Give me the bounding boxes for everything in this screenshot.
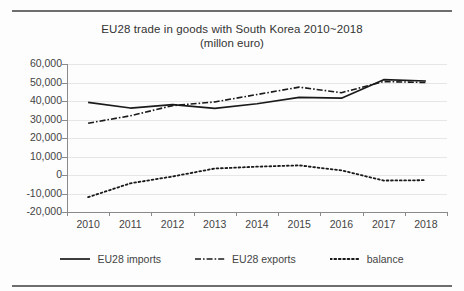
x-axis-label: 2015 — [288, 218, 311, 230]
x-axis-label: 2016 — [330, 218, 353, 230]
legend-item-eu28-imports[interactable]: EU28 imports — [60, 253, 161, 265]
legend-item-balance[interactable]: balance — [330, 253, 404, 265]
series-line-balance — [88, 165, 426, 197]
y-axis-label: 60,000 — [4, 57, 62, 69]
y-axis-label: 40,000 — [4, 94, 62, 106]
chart-subtitle: (millon euro) — [0, 36, 464, 50]
top-divider-rule — [12, 10, 452, 12]
legend-label: EU28 imports — [97, 253, 161, 265]
chart-legend: EU28 importsEU28 exportsbalance — [0, 246, 464, 272]
x-axis-label: 2017 — [372, 218, 395, 230]
y-axis-label: 30,000 — [4, 113, 62, 125]
x-axis-label: 2010 — [76, 218, 99, 230]
legend-label: balance — [367, 253, 404, 265]
x-axis-label: 2012 — [161, 218, 184, 230]
plot-area: 60,00050,00040,00030,00020,00010,0000-10… — [0, 56, 464, 236]
y-axis-label: 20,000 — [4, 131, 62, 143]
legend-item-eu28-exports[interactable]: EU28 exports — [195, 253, 296, 265]
solid-line-swatch — [60, 254, 90, 264]
page-root: EU28 trade in goods with South Korea 201… — [0, 0, 464, 291]
line-chart: EU28 trade in goods with South Korea 201… — [0, 14, 464, 282]
chart-title: EU28 trade in goods with South Korea 201… — [0, 14, 464, 36]
x-axis-tick-mark — [447, 212, 448, 216]
y-axis-label: 50,000 — [4, 76, 62, 88]
series-plot — [67, 64, 447, 212]
x-axis-line — [67, 212, 447, 213]
y-axis-label: 10,000 — [4, 150, 62, 162]
x-axis-label: 2011 — [119, 218, 142, 230]
y-axis-label: -10,000 — [4, 187, 62, 199]
series-line-eu28-exports — [88, 82, 426, 124]
x-axis-label: 2018 — [414, 218, 437, 230]
x-axis-label: 2014 — [245, 218, 268, 230]
series-lines — [67, 64, 447, 212]
legend-label: EU28 exports — [232, 253, 296, 265]
dotted-line-swatch — [330, 254, 360, 264]
bottom-divider-rule — [12, 285, 452, 287]
y-axis-label: 0 — [4, 168, 62, 180]
dash-dot-line-swatch — [195, 254, 225, 264]
y-axis-label: -20,000 — [4, 205, 62, 217]
x-axis-label: 2013 — [203, 218, 226, 230]
